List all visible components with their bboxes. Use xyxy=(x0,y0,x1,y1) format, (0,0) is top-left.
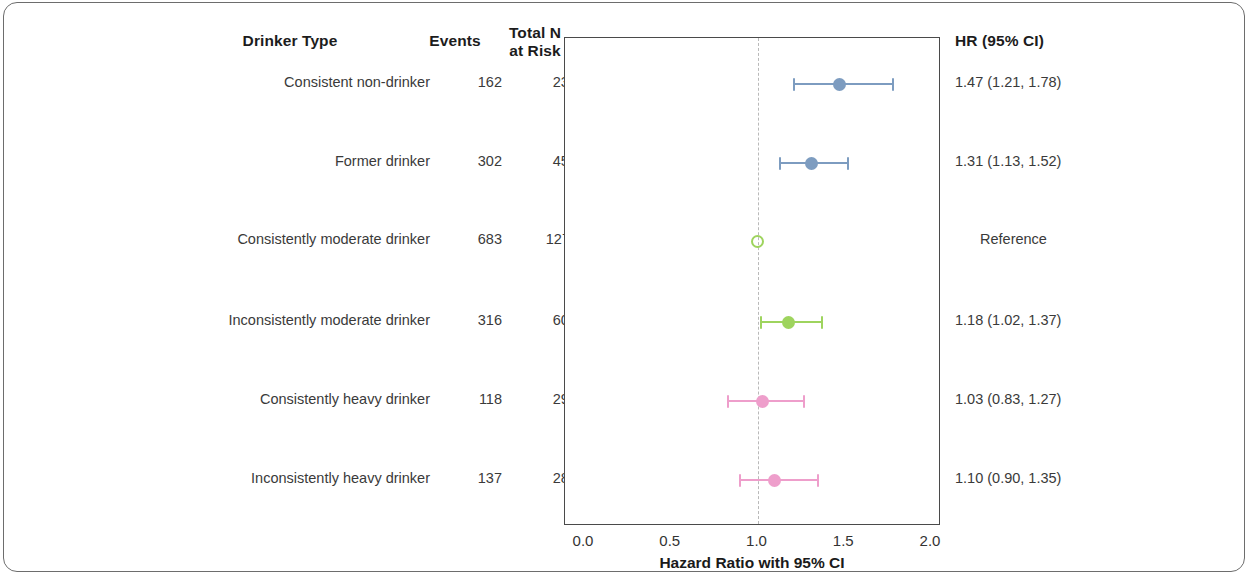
ci-lower-cap xyxy=(779,157,781,170)
forest-plot-figure: Drinker Type Events Total N at Risk HR (… xyxy=(0,0,1250,576)
ci-lower-cap xyxy=(760,316,762,329)
x-tick-label: 0.5 xyxy=(640,532,700,549)
x-tick-label: 2.0 xyxy=(900,532,960,549)
point-estimate-marker xyxy=(751,235,764,248)
point-estimate-marker xyxy=(833,78,846,91)
row-hr-value: 1.03 (0.83, 1.27) xyxy=(955,391,1195,407)
ci-upper-cap xyxy=(821,316,823,329)
point-estimate-marker xyxy=(756,395,769,408)
row-label: Consistent non-drinker xyxy=(110,74,430,90)
row-hr-value: 1.31 (1.13, 1.52) xyxy=(955,153,1195,169)
ci-upper-cap xyxy=(803,395,805,408)
point-estimate-marker xyxy=(768,474,781,487)
point-estimate-marker xyxy=(782,316,795,329)
x-tick-label: 1.0 xyxy=(727,532,787,549)
row-label: Inconsistently heavy drinker xyxy=(110,470,430,486)
row-label: Consistently moderate drinker xyxy=(110,231,430,247)
row-hr-value: 1.10 (0.90, 1.35) xyxy=(955,470,1195,486)
row-events: 683 xyxy=(412,231,502,247)
row-label: Consistently heavy drinker xyxy=(110,391,430,407)
row-events: 137 xyxy=(412,470,502,486)
ci-upper-cap xyxy=(892,78,894,91)
row-events: 316 xyxy=(412,312,502,328)
row-events: 118 xyxy=(412,391,502,407)
point-estimate-marker xyxy=(805,157,818,170)
row-events: 162 xyxy=(412,74,502,90)
ci-upper-cap xyxy=(817,474,819,487)
x-tick-label: 1.5 xyxy=(813,532,873,549)
row-hr-reference: Reference xyxy=(955,231,1220,247)
reference-line xyxy=(758,38,759,524)
column-header-hazard-ratio: HR (95% CI) xyxy=(955,32,1155,50)
row-label: Former drinker xyxy=(110,153,430,169)
row-events: 302 xyxy=(412,153,502,169)
ci-upper-cap xyxy=(847,157,849,170)
x-axis-title: Hazard Ratio with 95% CI xyxy=(564,554,940,572)
row-hr-value: 1.18 (1.02, 1.37) xyxy=(955,312,1195,328)
x-tick-label: 0.0 xyxy=(553,532,613,549)
ci-lower-cap xyxy=(727,395,729,408)
row-label: Inconsistently moderate drinker xyxy=(110,312,430,328)
ci-lower-cap xyxy=(793,78,795,91)
plot-panel xyxy=(564,37,940,525)
ci-lower-cap xyxy=(739,474,741,487)
row-hr-value: 1.47 (1.21, 1.78) xyxy=(955,74,1195,90)
column-header-drinker-type: Drinker Type xyxy=(150,32,430,50)
